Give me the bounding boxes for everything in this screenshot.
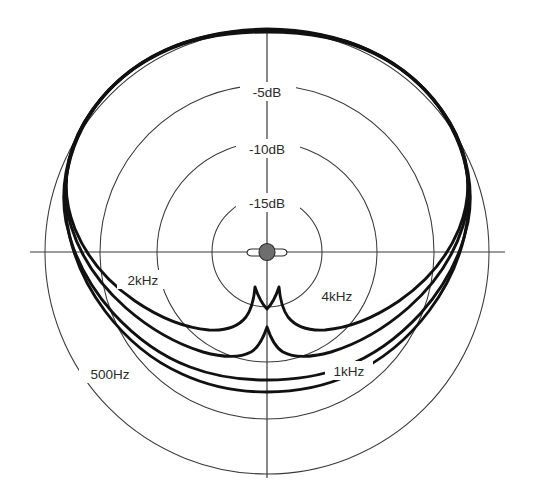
polar-plot-canvas: -5dB -10dB -15dB 2kHz 4kHz 500Hz 1kHz bbox=[0, 0, 534, 503]
ring-label-minus5: -5dB bbox=[253, 85, 282, 100]
series-label-group: 2kHz 4kHz 500Hz 1kHz bbox=[79, 270, 373, 383]
ring-label-group: -5dB -10dB -15dB bbox=[236, 82, 300, 212]
microphone-capsule-icon bbox=[247, 244, 287, 261]
ring-label-minus15: -15dB bbox=[249, 196, 285, 211]
polar-pattern-chart: -5dB -10dB -15dB 2kHz 4kHz 500Hz 1kHz bbox=[0, 0, 534, 503]
series-label-500hz: 500Hz bbox=[90, 367, 129, 382]
mic-capsule-body bbox=[259, 244, 275, 261]
series-label-2khz: 2kHz bbox=[128, 273, 159, 288]
series-label-1khz: 1kHz bbox=[334, 364, 365, 379]
series-label-4khz: 4kHz bbox=[322, 289, 353, 304]
ring-label-minus10: -10dB bbox=[249, 142, 285, 157]
